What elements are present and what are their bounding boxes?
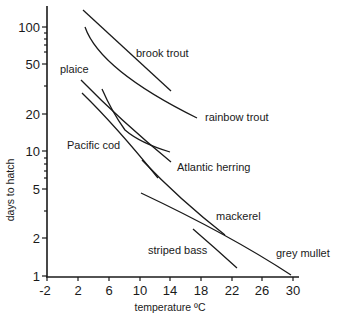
label-rainbow-trout: rainbow trout (205, 111, 269, 123)
x-tick-14: 14 (163, 283, 177, 298)
series-labels: brook trout rainbow trout plaice Pacific… (60, 47, 330, 259)
x-tick-22: 22 (225, 283, 239, 298)
y-tick-1: 1 (33, 269, 40, 284)
x-tick-18: 18 (194, 283, 208, 298)
x-tick-6: 6 (105, 283, 112, 298)
hatch-time-chart: 100 50 20 10 5 2 1 -2 2 6 10 14 18 22 26… (0, 0, 337, 316)
y-tick-2: 2 (33, 231, 40, 246)
y-tick-labels: 100 50 20 10 5 2 1 (18, 20, 40, 284)
label-plaice: plaice (60, 63, 89, 75)
x-tick-30: 30 (286, 283, 300, 298)
x-axis-title: temperature ºC (135, 301, 206, 313)
y-tick-20: 20 (26, 107, 40, 122)
y-axis-title: days to hatch (4, 159, 16, 222)
label-mackerel: mackerel (216, 210, 261, 222)
label-striped-bass: striped bass (148, 244, 208, 256)
y-tick-100: 100 (18, 20, 40, 35)
x-tick-labels: -2 2 6 10 14 18 22 26 30 (39, 283, 300, 298)
label-atlantic-herring: Atlantic herring (177, 161, 250, 173)
curve-grey-mullet (141, 193, 291, 275)
label-pacific-cod: Pacific cod (67, 139, 120, 151)
x-tick--2: -2 (39, 283, 51, 298)
x-tick-2: 2 (74, 283, 81, 298)
x-tick-26: 26 (255, 283, 269, 298)
curve-rainbow-trout (85, 27, 197, 118)
y-tick-50: 50 (26, 57, 40, 72)
y-tick-10: 10 (26, 144, 40, 159)
label-brook-trout: brook trout (136, 47, 189, 59)
label-grey-mullet: grey mullet (276, 247, 330, 259)
y-tick-5: 5 (33, 182, 40, 197)
x-tick-10: 10 (133, 283, 147, 298)
